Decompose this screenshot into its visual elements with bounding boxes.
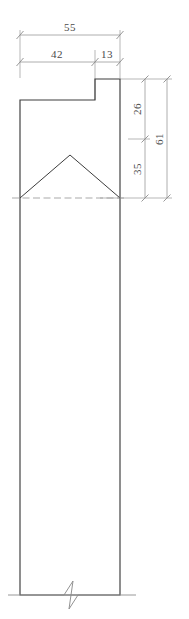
dimension-label-upper-height: 26	[131, 103, 143, 115]
dimension-overall-width: 55	[17, 21, 124, 39]
drawing-svg: 55 42 13 26 35	[0, 0, 189, 619]
top-dimension-extension-lines	[20, 30, 120, 100]
dimension-label-left-segment: 42	[51, 48, 63, 60]
dimension-sub-widths: 42 13	[17, 48, 124, 66]
dimension-right-segments: 26 35	[131, 76, 149, 202]
dimension-label-lower-height: 35	[131, 163, 143, 175]
part-outline	[20, 79, 120, 595]
chevron-profile-line	[20, 155, 120, 198]
dimension-label-right-segment: 13	[101, 48, 113, 60]
dimension-label-overall-width: 55	[64, 21, 76, 33]
dimension-overall-height: 61	[153, 76, 171, 202]
dimension-label-overall-height: 61	[153, 133, 165, 145]
cad-drawing-canvas: 55 42 13 26 35	[0, 0, 189, 619]
